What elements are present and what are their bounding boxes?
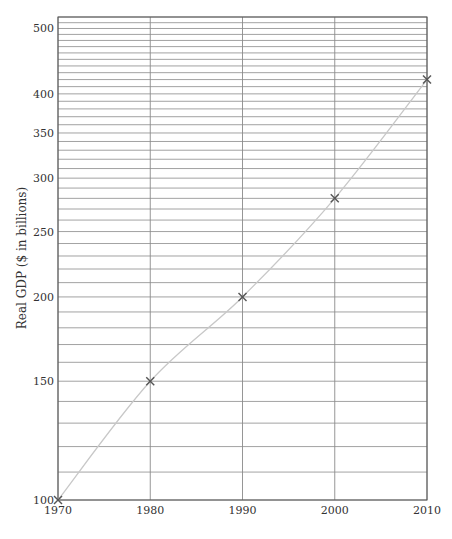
x-tick-label: 1970 (44, 504, 72, 517)
y-axis-label: Real GDP ($ in billions) (15, 187, 29, 329)
line-chart: 100150200250300350400500 197019801990200… (0, 0, 452, 539)
y-tick-label: 150 (33, 375, 54, 388)
y-axis-ticks: 100150200250300350400500 (33, 22, 54, 507)
x-tick-label: 2000 (321, 504, 349, 517)
y-tick-label: 350 (33, 127, 54, 140)
x-tick-label: 2010 (413, 504, 441, 517)
y-tick-label: 400 (33, 88, 54, 101)
y-tick-label: 250 (33, 226, 54, 239)
vertical-gridlines (58, 17, 427, 500)
x-tick-label: 1980 (136, 504, 164, 517)
y-tick-label: 500 (33, 22, 54, 35)
x-axis-ticks: 19701980199020002010 (44, 504, 441, 517)
y-tick-label: 300 (33, 172, 54, 185)
y-tick-label: 200 (33, 291, 54, 304)
x-tick-label: 1990 (229, 504, 257, 517)
